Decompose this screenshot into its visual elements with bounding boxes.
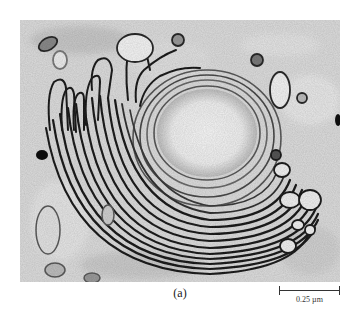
scale-bar-tick-right (339, 286, 340, 295)
panel-label: (a) (160, 286, 200, 301)
scale-bar-label: 0.25 µm (279, 295, 340, 304)
scale-bar-line (279, 290, 339, 291)
scale-bar: 0.25 µm (279, 286, 341, 306)
scale-bar-tick-left (279, 286, 280, 295)
micrograph-image (20, 20, 340, 282)
figure: (a) 0.25 µm (0, 0, 358, 315)
